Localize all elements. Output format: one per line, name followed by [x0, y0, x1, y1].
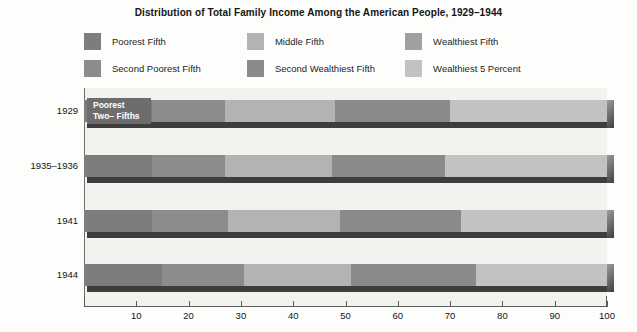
- bar-segment: [228, 210, 340, 232]
- year-label-3: 1941: [8, 215, 78, 226]
- bar-segment: [445, 155, 607, 177]
- legend-swatch-second-wealthiest-fifth: [247, 60, 264, 77]
- year-label-1: 1929: [8, 105, 78, 116]
- legend-item-second-wealthiest-fifth: Second Wealthiest Fifth: [247, 57, 405, 79]
- axis-tick-label: 70: [435, 310, 465, 321]
- stacked-bar: [84, 155, 607, 177]
- axis-tick: [502, 301, 503, 307]
- bar-segment: [84, 264, 162, 286]
- axis-tick: [450, 301, 451, 307]
- bar-segment: [225, 155, 332, 177]
- legend-item-second-poorest-fifth: Second Poorest Fifth: [84, 57, 247, 79]
- bar-shadow: [87, 122, 610, 128]
- callout-line-1: Poorest: [93, 100, 151, 111]
- chart-title: Distribution of Total Family Income Amon…: [0, 7, 637, 18]
- callout-line-2: Two– Fifths: [93, 111, 151, 122]
- bar-segment: [225, 100, 335, 122]
- bar-segment: [152, 210, 228, 232]
- legend-row-2: Second Poorest Fifth Second Wealthiest F…: [84, 57, 554, 79]
- bar-segment: [152, 100, 225, 122]
- bar-shadow: [87, 177, 610, 183]
- chart-root: Distribution of Total Family Income Amon…: [0, 0, 637, 332]
- axis-tick-label: 30: [226, 310, 256, 321]
- legend-item-middle-fifth: Middle Fifth: [247, 30, 405, 52]
- bar-end-cap: [607, 210, 614, 238]
- legend-swatch-wealthiest-5-percent: [405, 60, 422, 77]
- axis-tick: [241, 301, 242, 307]
- year-label-4: 1944: [8, 269, 78, 280]
- legend-label-poorest-fifth: Poorest Fifth: [112, 36, 166, 47]
- bar-segment: [152, 155, 225, 177]
- bar-segment: [244, 264, 351, 286]
- axis-tick-label: 40: [278, 310, 308, 321]
- stacked-bar: [84, 264, 607, 286]
- poorest-two-fifths-callout: Poorest Two– Fifths: [87, 98, 151, 124]
- bar-segment: [351, 264, 477, 286]
- axis-tick: [293, 301, 294, 307]
- bar-segment: [332, 155, 444, 177]
- bar-segment: [461, 210, 607, 232]
- axis-tick: [136, 301, 137, 307]
- legend-swatch-middle-fifth: [247, 33, 264, 50]
- chart-legend: Poorest Fifth Middle Fifth Wealthiest Fi…: [84, 30, 554, 82]
- bar-segment: [476, 264, 607, 286]
- stacked-bar: [84, 100, 607, 122]
- x-axis-start-tick: [84, 296, 85, 307]
- axis-tick: [189, 301, 190, 307]
- bar-shadow: [87, 286, 610, 292]
- legend-label-wealthiest-fifth: Wealthiest Fifth: [433, 36, 498, 47]
- axis-tick: [555, 301, 556, 307]
- bar-end-cap: [607, 100, 614, 128]
- legend-label-middle-fifth: Middle Fifth: [275, 36, 324, 47]
- axis-tick-label: 60: [383, 310, 413, 321]
- bar-segment: [335, 100, 450, 122]
- axis-tick: [346, 301, 347, 307]
- axis-tick: [607, 301, 608, 307]
- legend-label-second-poorest-fifth: Second Poorest Fifth: [112, 63, 201, 74]
- legend-item-wealthiest-5-percent: Wealthiest 5 Percent: [405, 57, 554, 79]
- year-label-2: 1935–1936: [8, 160, 78, 171]
- bar-segment: [340, 210, 460, 232]
- bar-end-cap: [607, 155, 614, 183]
- bar-segment: [84, 155, 152, 177]
- axis-tick-label: 90: [540, 310, 570, 321]
- legend-row-1: Poorest Fifth Middle Fifth Wealthiest Fi…: [84, 30, 554, 52]
- bar-shadow: [87, 232, 610, 238]
- legend-item-wealthiest-fifth: Wealthiest Fifth: [405, 30, 554, 52]
- legend-label-second-wealthiest-fifth: Second Wealthiest Fifth: [275, 63, 375, 74]
- axis-tick-label: 80: [487, 310, 517, 321]
- axis-tick-label: 100: [592, 310, 622, 321]
- axis-tick-label: 10: [121, 310, 151, 321]
- bar-segment: [84, 210, 152, 232]
- axis-tick: [398, 301, 399, 307]
- legend-item-poorest-fifth: Poorest Fifth: [84, 30, 247, 52]
- bar-segment: [162, 264, 243, 286]
- legend-label-wealthiest-5-percent: Wealthiest 5 Percent: [433, 63, 520, 74]
- bar-end-cap: [607, 264, 614, 292]
- legend-swatch-poorest-fifth: [84, 33, 101, 50]
- stacked-bar: [84, 210, 607, 232]
- legend-swatch-second-poorest-fifth: [84, 60, 101, 77]
- bar-segment: [450, 100, 607, 122]
- legend-swatch-wealthiest-fifth: [405, 33, 422, 50]
- axis-tick-label: 50: [331, 310, 361, 321]
- axis-tick-label: 20: [174, 310, 204, 321]
